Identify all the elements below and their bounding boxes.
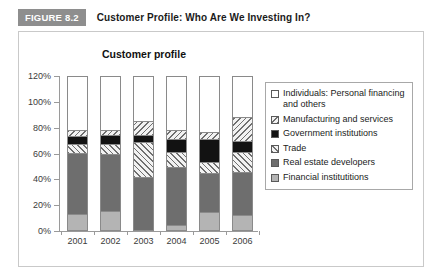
- y-axis-line: [59, 76, 60, 231]
- bar-segment-financial: [233, 216, 252, 230]
- x-axis-tick: [94, 231, 95, 235]
- bar-segment-individuals: [167, 101, 186, 131]
- legend-label: Trade: [283, 143, 306, 154]
- bar-segment-realestate: [101, 155, 120, 212]
- legend-label: Individuals: Personal financing and othe…: [283, 88, 407, 110]
- y-axis-label: 60%: [33, 149, 51, 159]
- bar-2002: [100, 76, 121, 231]
- chart-panel: Customer profile 0%20%40%60%80%100%120%2…: [18, 31, 424, 267]
- legend-label: Government institutions: [283, 128, 378, 139]
- chart-title: Customer profile: [19, 48, 269, 60]
- legend-item: Trade: [271, 143, 407, 154]
- x-axis-tick: [61, 231, 62, 235]
- bar-segment-financial: [200, 213, 219, 230]
- y-axis-tick: [54, 205, 59, 206]
- bar-segment-financial: [68, 215, 87, 231]
- x-axis-tick: [226, 231, 227, 235]
- y-axis-label: 40%: [33, 174, 51, 184]
- bar-segment-individuals: [134, 101, 153, 122]
- bar-segment-financial: [101, 212, 120, 230]
- bar-segment-trade: [68, 145, 87, 154]
- bar-segment-realestate: [134, 178, 153, 230]
- bar-segment-trade: [134, 143, 153, 178]
- bar-2004: [166, 76, 187, 231]
- bar-segment-trade: [101, 145, 120, 155]
- x-axis-tick: [259, 231, 260, 235]
- x-axis-label-2002: 2002: [100, 236, 120, 246]
- x-axis-tick: [193, 231, 194, 235]
- y-axis-tick: [54, 179, 59, 180]
- legend-item: Real estate developers: [271, 157, 407, 168]
- y-axis-tick: [54, 154, 59, 155]
- bar-segment-individuals: [200, 101, 219, 133]
- bar-segment-government: [167, 140, 186, 153]
- bar-segment-individuals: [101, 101, 120, 131]
- legend-swatch-realestate-icon: [271, 159, 279, 167]
- chart-legend: Individuals: Personal financing and othe…: [265, 82, 413, 190]
- y-axis-tick: [54, 102, 59, 103]
- bar-segment-individuals: [68, 101, 87, 131]
- bar-2003: [133, 76, 154, 231]
- legend-item: Individuals: Personal financing and othe…: [271, 88, 407, 110]
- bar-segment-manufacturing: [167, 131, 186, 140]
- y-axis-label: 120%: [28, 71, 51, 81]
- bar-segment-trade: [200, 163, 219, 175]
- bar-segment-realestate: [200, 174, 219, 213]
- x-axis-label-2006: 2006: [232, 236, 252, 246]
- bar-segment-realestate: [233, 173, 252, 216]
- bar-segment-manufacturing: [233, 118, 252, 143]
- plot-area: 0%20%40%60%80%100%120%200120022003200420…: [59, 76, 257, 231]
- legend-swatch-trade-icon: [271, 145, 279, 153]
- bar-segment-government: [134, 136, 153, 144]
- figure-page: FIGURE 8.2 Customer Profile: Who Are We …: [0, 0, 443, 279]
- bar-segment-individuals: [233, 101, 252, 118]
- bar-segment-financial: [167, 226, 186, 230]
- bar-segment-government: [68, 137, 87, 145]
- y-axis-tick: [54, 231, 59, 232]
- legend-swatch-government-icon: [271, 130, 279, 138]
- figure-number-badge: FIGURE 8.2: [18, 9, 86, 26]
- bar-segment-realestate: [167, 168, 186, 226]
- legend-item: Government institutions: [271, 128, 407, 139]
- x-axis-tick: [160, 231, 161, 235]
- bar-segment-trade: [233, 153, 252, 174]
- legend-item: Manufacturing and services: [271, 114, 407, 125]
- y-axis-tick: [54, 76, 59, 77]
- bar-segment-realestate: [68, 154, 87, 215]
- x-axis-tick: [127, 231, 128, 235]
- y-axis-tick: [54, 128, 59, 129]
- legend-item: Financial institutitions: [271, 172, 407, 183]
- legend-label: Manufacturing and services: [283, 114, 393, 125]
- bar-2005: [199, 76, 220, 231]
- legend-swatch-financial-icon: [271, 174, 279, 182]
- bar-segment-trade: [167, 153, 186, 169]
- x-axis-label-2003: 2003: [133, 236, 153, 246]
- y-axis-label: 0%: [38, 226, 51, 236]
- bar-segment-manufacturing: [134, 122, 153, 136]
- bar-segment-government: [233, 142, 252, 152]
- bar-2001: [67, 76, 88, 231]
- figure-header: FIGURE 8.2 Customer Profile: Who Are We …: [18, 9, 310, 26]
- y-axis-label: 80%: [33, 123, 51, 133]
- bar-segment-government: [101, 136, 120, 145]
- legend-label: Real estate developers: [283, 157, 375, 168]
- x-axis-label-2004: 2004: [166, 236, 186, 246]
- bar-2006: [232, 76, 253, 231]
- figure-title: Customer Profile: Who Are We Investing I…: [86, 9, 311, 26]
- y-axis-label: 20%: [33, 200, 51, 210]
- bar-segment-government: [200, 140, 219, 163]
- x-axis-label-2005: 2005: [199, 236, 219, 246]
- y-axis-label: 100%: [28, 97, 51, 107]
- x-axis-line: [59, 231, 258, 232]
- x-axis-label-2001: 2001: [67, 236, 87, 246]
- legend-label: Financial institutitions: [283, 172, 369, 183]
- legend-swatch-individuals-icon: [271, 90, 279, 98]
- legend-swatch-manufacturing-icon: [271, 116, 279, 124]
